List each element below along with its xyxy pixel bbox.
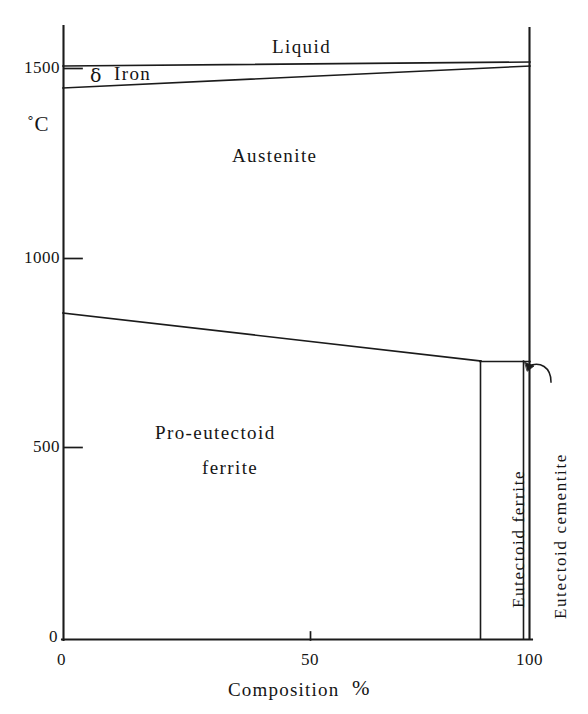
region-label-eutectoid-cementite: Eutectoid cementite (551, 453, 571, 619)
region-label-pro-eutectoid: Pro-eutectoid (155, 422, 276, 444)
x-tick-label-0: 0 (57, 650, 66, 670)
y-axis-title: ˚C (27, 112, 49, 137)
region-label-liquid: Liquid (272, 36, 331, 58)
phase-diagram-canvas (0, 0, 588, 714)
region-label-delta-symbol: δ (90, 64, 102, 86)
y-tick-label-1500: 1500 (24, 58, 60, 78)
y-tick-label-500: 500 (33, 437, 60, 457)
x-tick-label-50: 50 (301, 650, 319, 670)
region-label-austenite: Austenite (232, 145, 317, 167)
region-label-eutectoid-ferrite: Eutectoid ferrite (509, 470, 529, 608)
region-label-delta-iron: Iron (114, 63, 151, 85)
x-tick-label-100: 100 (516, 650, 543, 670)
phase-diagram-figure: 1500 1000 500 0 ˚C 0 50 100 Composition … (0, 0, 588, 714)
y-tick-label-0: 0 (49, 627, 58, 647)
region-label-pro-eutectoid-ferrite: ferrite (202, 457, 258, 479)
y-tick-label-1000: 1000 (24, 248, 60, 268)
x-axis-title: Composition (228, 679, 339, 701)
austenite-ferrite-boundary-line (63, 313, 481, 361)
x-axis-title-unit: % (352, 676, 370, 701)
